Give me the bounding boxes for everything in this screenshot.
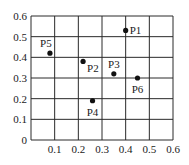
x-tick-label: 0.2: [71, 143, 85, 155]
scatter-chart: 00.10.20.30.40.50.6 0.10.20.30.40.50.6 P…: [0, 0, 189, 165]
data-points: P1P2P3P4P5P6: [40, 24, 144, 117]
data-point-p5: P5: [40, 37, 52, 56]
point-marker-icon: [47, 51, 52, 56]
y-tick-label: 0.6: [13, 10, 27, 22]
x-tick-label: 0.3: [95, 143, 109, 155]
data-point-p4: P4: [87, 98, 99, 118]
x-tick-label: 0.5: [142, 143, 156, 155]
y-tick-label: 0.4: [13, 51, 27, 63]
point-marker-icon: [123, 28, 128, 33]
grid: [31, 16, 173, 140]
y-tick-label: 0.2: [13, 93, 27, 105]
x-tick-label: 0.4: [119, 143, 133, 155]
chart-canvas: 00.10.20.30.40.50.6 0.10.20.30.40.50.6 P…: [0, 0, 189, 165]
point-label: P4: [87, 106, 99, 118]
y-tick-label: 0.3: [13, 72, 27, 84]
point-marker-icon: [90, 98, 95, 103]
data-point-p2: P2: [80, 59, 98, 75]
point-label: P5: [40, 37, 52, 49]
point-marker-icon: [135, 75, 140, 80]
point-label: P3: [108, 58, 120, 70]
y-tick-label: 0: [22, 134, 28, 146]
point-marker-icon: [111, 71, 116, 76]
x-tick-label: 0.6: [166, 143, 180, 155]
point-label: P2: [87, 62, 99, 74]
x-tick-label: 0.1: [48, 143, 62, 155]
y-tick-label: 0.5: [13, 31, 27, 43]
y-axis-ticks: 00.10.20.30.40.50.6: [13, 10, 27, 146]
point-marker-icon: [80, 59, 85, 64]
x-axis-ticks: 0.10.20.30.40.50.6: [48, 143, 181, 155]
data-point-p3: P3: [108, 58, 120, 77]
y-tick-label: 0.1: [13, 113, 27, 125]
point-label: P1: [130, 24, 142, 36]
point-label: P6: [132, 83, 144, 95]
